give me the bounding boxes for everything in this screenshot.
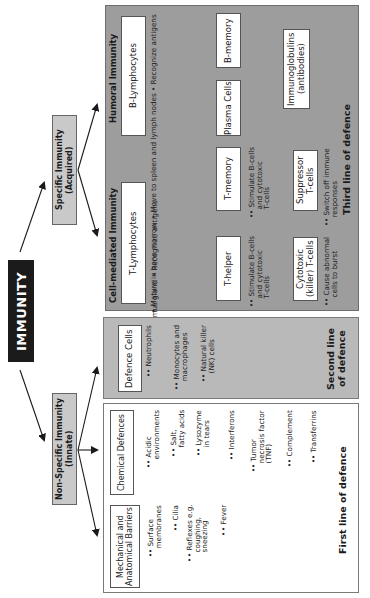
t-lymphocytes-bullets: Mature in thymus gland Recognize antigen… bbox=[151, 200, 159, 304]
bullet-line: (TNF) bbox=[264, 443, 273, 463]
chemical-bullet-4: • Interferons bbox=[228, 410, 236, 495]
defence-cells-bullet-3: • Natural killer (NK) cells bbox=[200, 325, 215, 392]
t-helper-label: T-helper bbox=[224, 251, 234, 286]
cytotoxic-bullet: • Cause abnormal cells to burst bbox=[323, 237, 338, 301]
suppressor-label-2: T-cells bbox=[306, 157, 316, 205]
defence-cells-label: Defence Cells bbox=[125, 329, 135, 387]
suppressor-bullet: • Switch off immune responses bbox=[323, 148, 338, 212]
mechanical-bullet-3: • Reflexes e.g. coughing, sneezing bbox=[186, 505, 209, 588]
t-lymphocytes-box: T-Lymphocytes bbox=[121, 182, 146, 304]
chemical-bullet-3: • Lysozyme in tears bbox=[195, 410, 210, 495]
mechanical-bullet-2: • Cilia bbox=[172, 505, 180, 588]
t-helper-box: T-helper bbox=[216, 236, 241, 301]
bullet-line: membranes bbox=[154, 505, 163, 548]
chemical-defences-label: Chemical Defences bbox=[117, 414, 126, 491]
cytotoxic-label-2: (killer) T-cells bbox=[306, 241, 316, 298]
b-lymphocytes-bullets: Mature in bone marrow Move to spleen and… bbox=[150, 14, 158, 134]
t-memory-bullet: • Stimulate B-cells and cytotoxic T-cell… bbox=[248, 147, 271, 211]
defence-cells-bullet-2: • Monocytes and macrophages bbox=[173, 325, 188, 392]
chemical-bullet-2: • Salt, fatty acids bbox=[170, 410, 185, 495]
t-memory-box: T-memory bbox=[216, 147, 241, 211]
bullet-line: Fever bbox=[219, 505, 228, 525]
b-lymphocytes-label: B-Lymphocytes bbox=[129, 44, 139, 109]
b-memory-box: B-memory bbox=[216, 13, 241, 68]
defence-cells-box: Defence Cells bbox=[118, 325, 142, 392]
mechanical-bullet-4: • Fever bbox=[220, 505, 228, 588]
t-helper-bullet: • Stimulate B-cells and cytotoxic T-cell… bbox=[248, 236, 271, 302]
b-lymphocytes-box: B-Lymphocytes bbox=[121, 16, 146, 136]
cytotoxic-t-cells-box: Cytotoxic (killer) T-cells bbox=[293, 237, 318, 301]
second-line-label: Second line of defence bbox=[326, 325, 348, 392]
suppressor-t-cells-box: Suppressor T-cells bbox=[293, 150, 318, 211]
cell-mediated-immunity-title: Cell-mediated Immunity bbox=[108, 185, 118, 303]
bullet-line: responses bbox=[330, 181, 339, 217]
bullet-line: Interferons bbox=[227, 410, 236, 449]
mechanical-label: Mechanical and bbox=[116, 507, 125, 586]
first-line-label: First line of defence bbox=[338, 430, 349, 570]
chemical-bullet-1: • Acidic environments bbox=[145, 410, 160, 495]
t-lymphocytes-label: T-Lymphocytes bbox=[129, 211, 139, 274]
specific-immunity-title: Specific Immunity bbox=[55, 130, 65, 211]
chemical-bullet-7: • Transferrins bbox=[310, 410, 318, 495]
bullet-line: sneezing bbox=[200, 521, 209, 553]
non-specific-immunity-subtitle: (Innate) bbox=[65, 398, 75, 500]
bullet-line: Transferrins bbox=[309, 410, 318, 452]
bullet-line: (NK) cells bbox=[207, 339, 216, 373]
specific-immunity-subtitle: (Acquired) bbox=[65, 130, 75, 211]
plasma-cells-box: Plasma Cells bbox=[216, 80, 241, 136]
antibodies-label: (antibodies) bbox=[297, 32, 307, 105]
defence-cells-bullet-1: • Neutrophils bbox=[145, 325, 153, 392]
mechanical-bullet-1: • Surface membranes bbox=[147, 505, 162, 588]
chemical-bullet-6: • Complement bbox=[286, 410, 294, 495]
bullet: Recognize antigens bbox=[151, 200, 159, 277]
chemical-bullet-5: • Tumor necrosis factor (TNF) bbox=[250, 410, 273, 495]
immunity-title: IMMUNITY bbox=[8, 260, 34, 362]
plasma-cells-label: Plasma Cells bbox=[224, 81, 234, 135]
third-line-label: Third line of defence bbox=[342, 95, 353, 225]
non-specific-immunity-box: Non-Specific Immunity (Innate) bbox=[52, 393, 77, 505]
bullet-line: Cilia bbox=[171, 505, 180, 520]
bullet-line: cells to burst bbox=[330, 251, 339, 298]
immunoglobulins-box: Immunoglobulins (antibodies) bbox=[283, 29, 310, 109]
chemical-defences-box: Chemical Defences bbox=[110, 410, 134, 495]
second-line-label-2: of defence bbox=[337, 327, 348, 389]
bullet-line: Neutrophils bbox=[144, 325, 153, 366]
bullet-line: macrophages bbox=[180, 333, 189, 382]
non-specific-immunity-title: Non-Specific Immunity bbox=[55, 398, 65, 500]
bullet-line: Complement bbox=[285, 410, 294, 456]
bullet-line: fatty acids bbox=[177, 410, 186, 448]
bullet: Recognize antigens bbox=[150, 14, 158, 91]
b-memory-label: B-memory bbox=[224, 18, 234, 62]
bullet-line: T-cells bbox=[262, 276, 271, 298]
humoral-immunity-title: Humoral Immunity bbox=[108, 33, 118, 123]
mechanical-barriers-box: Mechanical and Anatomical Barriers bbox=[110, 505, 140, 588]
specific-immunity-box: Specific Immunity (Acquired) bbox=[52, 115, 77, 225]
bullet-line: environments bbox=[152, 410, 161, 460]
immunity-title-text: IMMUNITY bbox=[14, 271, 29, 350]
t-memory-label: T-memory bbox=[224, 158, 234, 201]
anatomical-barriers-label: Anatomical Barriers bbox=[125, 507, 134, 586]
bullet-line: in tears bbox=[202, 420, 211, 447]
bullet-line: T-cells bbox=[262, 187, 271, 209]
